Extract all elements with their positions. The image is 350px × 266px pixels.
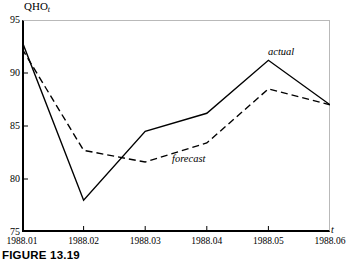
x-tick-label: 1988.01 bbox=[0, 236, 51, 246]
y-tick-label: 80 bbox=[0, 174, 20, 184]
x-tick-label: 1988.05 bbox=[239, 236, 297, 246]
series-label-actual: actual bbox=[268, 46, 294, 57]
y-tick-label: 85 bbox=[0, 121, 20, 131]
series-label-forecast: forecast bbox=[172, 153, 205, 164]
x-tick-label: 1988.04 bbox=[178, 236, 236, 246]
y-axis-title-subscript: t bbox=[48, 5, 50, 14]
y-tick-label: 95 bbox=[0, 15, 20, 25]
y-axis-title-text: QHO bbox=[24, 0, 48, 12]
y-tick-label: 90 bbox=[0, 68, 20, 78]
series-line-actual bbox=[22, 41, 330, 200]
x-tick-label: 1988.06 bbox=[301, 236, 350, 246]
series-line-forecast bbox=[22, 49, 330, 162]
x-axis-title: t bbox=[331, 224, 334, 235]
x-tick-label: 1988.03 bbox=[116, 236, 174, 246]
y-axis-title: QHOt bbox=[24, 1, 50, 15]
figure-caption: FIGURE 13.19 bbox=[2, 249, 80, 261]
x-tick-label: 1988.02 bbox=[55, 236, 113, 246]
